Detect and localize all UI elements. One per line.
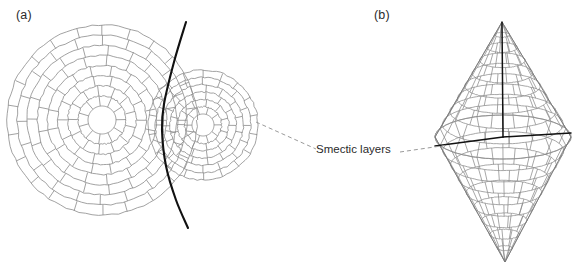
panel-label-b: (b): [374, 8, 390, 22]
panel-label-a: (a): [16, 8, 32, 22]
bipyramid-axis-lines: [435, 22, 571, 146]
smectic-layers-label: Smectic layers: [316, 143, 391, 155]
figure-root: (a) (b) Smectic layers: [0, 0, 582, 276]
figure-canvas: [0, 0, 582, 276]
onion-domain-small: [148, 70, 258, 181]
onion-domain-large: [7, 25, 198, 216]
